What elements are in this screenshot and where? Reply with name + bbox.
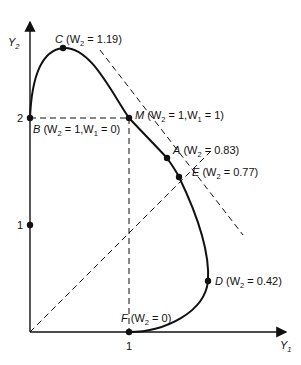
y1-axis-label: Y1 xyxy=(280,339,292,354)
label-e: E (W2 = 0.77) xyxy=(192,166,258,181)
frontier-diagram: Y2 Y1 2 1 1 C (W2 = 1.19) M (W2 = 1,W1 =… xyxy=(0,0,301,365)
frontier-curve xyxy=(30,48,208,332)
dashed-tangent-line xyxy=(100,50,243,235)
label-m: M (W2 = 1,W1 = 1) xyxy=(135,109,224,124)
point-y2-1 xyxy=(27,222,33,228)
point-f xyxy=(126,329,132,335)
dashed-diagonal-ray xyxy=(30,150,212,332)
label-f: F (W2 = 0) xyxy=(121,312,171,327)
point-e xyxy=(176,174,182,180)
y2-tick-2: 2 xyxy=(17,112,23,124)
point-m xyxy=(126,115,132,121)
y2-tick-1: 1 xyxy=(17,219,23,231)
y2-axis-label: Y2 xyxy=(8,36,20,51)
label-b: B (W2 = 1,W1 = 0) xyxy=(33,123,120,138)
point-a xyxy=(164,155,170,161)
point-c xyxy=(60,45,66,51)
y1-tick-1: 1 xyxy=(126,340,132,352)
point-d xyxy=(205,278,211,284)
point-b xyxy=(27,115,33,121)
label-d: D (W2 = 0.42) xyxy=(215,275,282,290)
